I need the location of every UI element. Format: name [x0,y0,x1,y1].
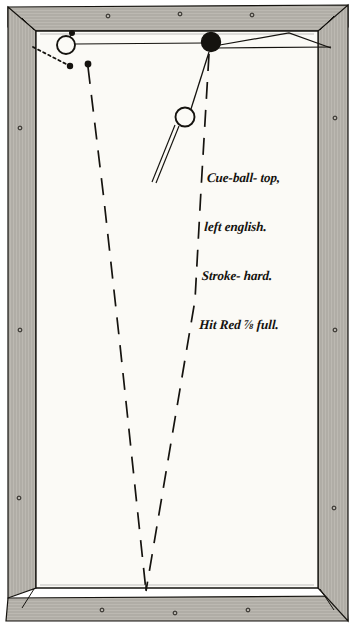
spot-left-dashed-start [85,61,92,68]
annotation-line-3: Stroke- hard. [201,268,332,284]
annotation-line-2: left english. [204,219,335,235]
bottom-rail [6,596,348,621]
cue-ball [176,108,195,127]
red-ball [202,33,221,52]
left-rail [8,7,36,598]
annotation-line-1: Cue-ball- top, [206,170,337,186]
billiards-shot-diagram: Cue-ball- top, left english. Stroke- har… [0,0,354,628]
spot-dotted-path-end [67,63,73,69]
top-rail [8,5,348,31]
spot-above-white-ball [69,30,75,36]
object-ball-white [57,36,75,54]
shot-annotation: Cue-ball- top, left english. Stroke- har… [197,137,339,367]
annotation-line-4: Hit Red ⅞ full. [199,317,330,333]
